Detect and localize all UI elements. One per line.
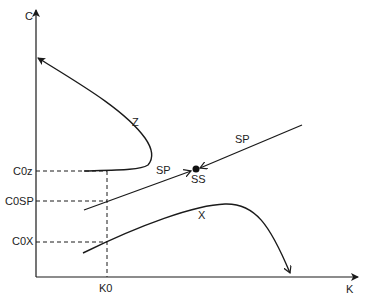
sp-label-right: SP: [235, 133, 250, 145]
z-curve: [38, 58, 152, 171]
x-curve-label: X: [198, 209, 206, 221]
c0z-label: C0z: [13, 165, 33, 177]
sp-upper-branch: [200, 125, 302, 168]
z-curve-label: Z: [132, 116, 139, 128]
steady-state-label: SS: [191, 173, 206, 185]
sp-lower-branch: [84, 171, 191, 210]
c0sp-label: C0SP: [5, 195, 34, 207]
x-axis-label: K: [346, 283, 354, 295]
steady-state-point: [193, 166, 200, 173]
phase-diagram: C K C0z C0SP C0X K0 Z SP SP SS X: [0, 0, 368, 300]
y-axis-label: C: [25, 10, 33, 22]
c0x-label: C0X: [12, 235, 34, 247]
k0-label: K0: [99, 282, 112, 294]
x-curve: [83, 204, 290, 273]
sp-label-left: SP: [156, 164, 171, 176]
